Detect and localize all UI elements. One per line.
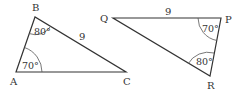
angle-p-label: 70° [202, 23, 219, 34]
vertex-r-label: R [207, 80, 215, 91]
triangle-pqr: Q P R 70° 80° 9 [100, 6, 232, 91]
angle-a-label: 70° [22, 60, 39, 71]
angle-b-label: 80° [34, 26, 51, 37]
vertex-c-label: C [123, 76, 131, 87]
vertex-q-label: Q [100, 13, 108, 24]
vertex-b-label: B [32, 2, 39, 13]
similar-triangles-diagram: B A C 80° 70° 9 Q P R 70° 80° 9 [0, 0, 247, 99]
side-bc-label: 9 [79, 31, 85, 42]
vertex-a-label: A [9, 76, 18, 87]
side-qp-label: 9 [165, 6, 171, 17]
triangle-abc: B A C 80° 70° 9 [9, 2, 131, 87]
angle-r-label: 80° [196, 56, 213, 67]
vertex-p-label: P [225, 14, 232, 25]
